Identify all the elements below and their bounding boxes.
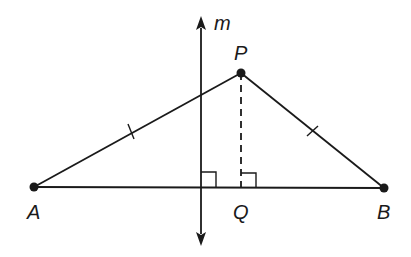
label-m: m xyxy=(214,12,231,34)
point-p xyxy=(237,69,246,78)
right-angle-marker-m xyxy=(201,172,216,187)
segment-ab xyxy=(34,187,384,188)
point-a xyxy=(30,183,39,192)
geometry-diagram: A B P Q m xyxy=(0,0,411,257)
label-q: Q xyxy=(233,201,249,223)
arrow-down-icon xyxy=(196,232,206,246)
diagram-canvas: A B P Q m xyxy=(0,0,411,257)
segment-ap xyxy=(34,73,241,187)
point-b xyxy=(380,184,389,193)
label-a: A xyxy=(26,201,40,223)
label-p: P xyxy=(234,42,248,64)
label-b: B xyxy=(377,201,390,223)
right-angle-marker-q xyxy=(241,173,256,187)
arrow-up-icon xyxy=(196,16,206,30)
